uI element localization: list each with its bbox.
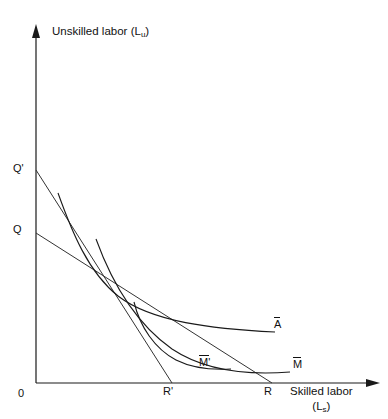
isocost-line-QprimeRprime: [36, 170, 172, 383]
curve-label-m-bar-prime-text: M': [199, 357, 210, 368]
point-label-q-prime: Q': [13, 163, 24, 174]
curve-label-m-bar-prime: M': [199, 357, 210, 368]
isoquant-M-bar: [96, 239, 290, 373]
curve-label-m-bar: M: [293, 359, 302, 370]
diagram-canvas: [0, 0, 388, 419]
point-label-r: R: [264, 386, 272, 397]
curve-label-a-bar-text: A: [274, 319, 281, 330]
economics-isoquant-diagram: Unskilled labor (Lu) Skilled labor (Ls) …: [0, 0, 388, 419]
curve-label-m-bar-text: M: [293, 359, 302, 370]
point-label-r-prime: R': [163, 386, 173, 397]
y-axis: [32, 24, 40, 383]
isocost-line-QR: [36, 233, 272, 383]
x-axis-subscript: s: [323, 405, 327, 414]
x-axis-label: Skilled labor (Ls): [290, 386, 353, 414]
x-axis-variable-group: (Ls): [290, 401, 353, 414]
isoquant-A-bar: [58, 193, 275, 332]
origin-label: 0: [18, 388, 24, 399]
y-axis-label-text: Unskilled labor: [52, 25, 127, 37]
y-axis-label: Unskilled labor (Lu): [52, 26, 149, 39]
x-axis-label-text: Skilled labor: [290, 385, 353, 397]
point-label-q: Q: [13, 224, 22, 235]
curve-label-a-bar: A: [274, 319, 281, 330]
